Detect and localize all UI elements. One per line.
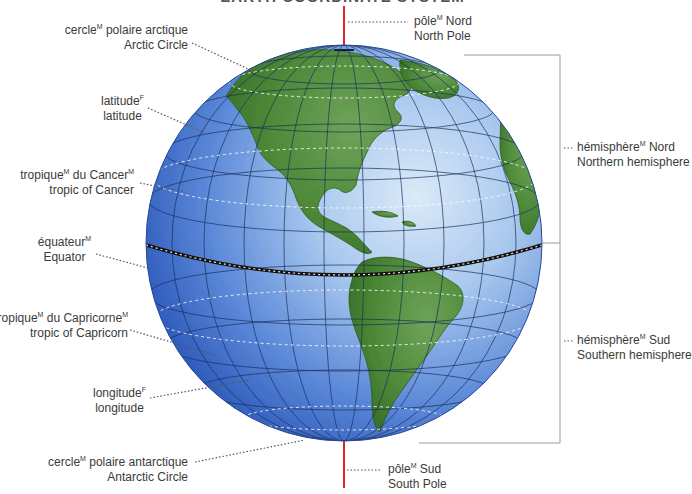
label-latitude: latitudeF latitude — [101, 94, 144, 124]
label-south-pole: pôleM Sud South Pole — [388, 462, 447, 492]
label-north-pole: pôleM Nord North Pole — [414, 14, 472, 44]
label-longitude: longitudeF longitude — [93, 386, 146, 416]
label-tropic-of-capricorn: tropiqueM du CapricorneM tropic of Capri… — [0, 311, 128, 341]
label-equator: équateurM Equator — [38, 235, 91, 265]
label-northern-hemisphere: hémisphèreM Nord Northern hemisphere — [577, 140, 690, 170]
label-arctic-circle: cercleM polaire arctique Arctic Circle — [65, 23, 188, 53]
label-southern-hemisphere: hémisphèreM Sud Southern hemisphere — [577, 333, 692, 363]
label-tropic-of-cancer: tropiqueM du CancerM tropic of Cancer — [20, 168, 134, 198]
label-antarctic-circle: cercleM polaire antarctique Antarctic Ci… — [48, 455, 188, 485]
